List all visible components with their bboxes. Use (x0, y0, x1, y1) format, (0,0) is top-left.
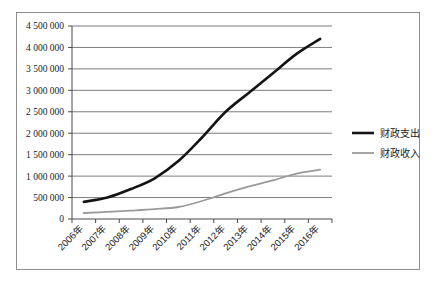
chart-canvas: 0500 0001 000 0001 500 0002 000 0002 500… (0, 0, 437, 283)
y-axis-tick-label: 2 000 000 (26, 129, 64, 139)
x-axis-tick-label: 2007年 (79, 223, 109, 253)
y-axis-tick-label: 0 (59, 214, 64, 224)
y-axis-tick-marks (68, 26, 72, 219)
y-axis-tick-label: 1 500 000 (26, 150, 64, 160)
y-axis-tick-label: 2 500 000 (26, 107, 64, 117)
gridlines-group (72, 26, 332, 198)
y-axis-tick-label: 3 000 000 (26, 86, 64, 96)
data-series-group (84, 39, 320, 213)
x-axis-tick-label: 2014年 (245, 223, 275, 253)
x-axis-tick-label: 2009年 (126, 223, 156, 253)
chart-legend: 财政支出财政收入 (352, 127, 420, 159)
y-axis-tick-label: 3 500 000 (26, 64, 64, 74)
y-axis-tick-labels: 0500 0001 000 0001 500 0002 000 0002 500… (26, 21, 64, 224)
legend-item-label: 财政支出 (380, 127, 420, 139)
x-axis-tick-label: 2008年 (103, 223, 133, 253)
legend-item-label: 财政收入 (380, 147, 420, 159)
y-axis-tick-label: 1 000 000 (26, 172, 64, 182)
y-axis-tick-label: 500 000 (33, 193, 64, 203)
x-axis-tick-label: 2015年 (268, 223, 298, 253)
fiscal-line-chart-figure: 0500 0001 000 0001 500 0002 000 0002 500… (0, 0, 437, 283)
x-axis-tick-labels: 2006年2007年2008年2009年2010年2011年2012年2013年… (55, 223, 321, 253)
x-axis-tick-label: 2010年 (150, 223, 180, 253)
x-axis-tick-marks (72, 219, 332, 223)
x-axis-tick-label: 2013年 (221, 223, 251, 253)
x-axis-tick-label: 2016年 (292, 223, 322, 253)
x-axis-tick-label: 2006年 (55, 223, 85, 253)
x-axis-tick-label: 2012年 (197, 223, 227, 253)
y-axis-tick-label: 4 000 000 (26, 43, 64, 53)
y-axis-tick-label: 4 500 000 (26, 21, 64, 31)
